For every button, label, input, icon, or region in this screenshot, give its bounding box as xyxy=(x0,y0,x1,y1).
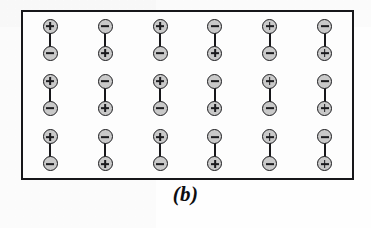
negative-charge-icon xyxy=(153,101,168,116)
dipole-stem xyxy=(269,33,271,47)
negative-charge-icon xyxy=(43,101,58,116)
negative-charge-icon xyxy=(153,46,168,61)
dipole xyxy=(262,129,278,171)
positive-charge-icon xyxy=(43,74,58,89)
dipole-stem xyxy=(324,143,326,157)
dipole xyxy=(42,19,58,61)
negative-charge-icon xyxy=(43,46,58,61)
dipole-stem xyxy=(104,88,106,102)
negative-charge-icon xyxy=(262,156,277,171)
positive-charge-icon xyxy=(98,156,113,171)
positive-charge-icon xyxy=(98,101,113,116)
positive-charge-icon xyxy=(262,19,277,34)
positive-charge-icon xyxy=(153,74,168,89)
positive-charge-icon xyxy=(207,46,222,61)
positive-charge-icon xyxy=(43,129,58,144)
dipole-stem xyxy=(324,33,326,47)
dipole-stem xyxy=(159,88,161,102)
dipole xyxy=(97,19,113,61)
positive-charge-icon xyxy=(153,129,168,144)
positive-charge-icon xyxy=(153,19,168,34)
dipole-stem xyxy=(104,143,106,157)
dipole-stem xyxy=(159,143,161,157)
negative-charge-icon xyxy=(317,129,332,144)
dipole-stem xyxy=(104,33,106,47)
dipole xyxy=(42,74,58,116)
positive-charge-icon xyxy=(262,74,277,89)
dielectric-slab xyxy=(21,10,354,180)
dipole xyxy=(207,129,223,171)
negative-charge-icon xyxy=(317,19,332,34)
negative-charge-icon xyxy=(207,74,222,89)
positive-charge-icon xyxy=(207,101,222,116)
dipole xyxy=(152,129,168,171)
negative-charge-icon xyxy=(207,129,222,144)
positive-charge-icon xyxy=(317,46,332,61)
dipole-stem xyxy=(269,143,271,157)
dipole xyxy=(317,19,333,61)
dipole xyxy=(207,19,223,61)
figure-caption: (b) xyxy=(0,182,371,207)
dipole-stem xyxy=(49,33,51,47)
negative-charge-icon xyxy=(262,101,277,116)
dipole xyxy=(317,129,333,171)
dipole-stem xyxy=(49,143,51,157)
dipole-stem xyxy=(269,88,271,102)
dipole xyxy=(97,74,113,116)
dipole xyxy=(152,19,168,61)
dipole xyxy=(152,74,168,116)
negative-charge-icon xyxy=(207,19,222,34)
dipole xyxy=(207,74,223,116)
positive-charge-icon xyxy=(317,101,332,116)
dipole xyxy=(262,19,278,61)
dipole-grid xyxy=(23,12,352,178)
positive-charge-icon xyxy=(207,156,222,171)
dipole-stem xyxy=(49,88,51,102)
figure-panel-b: (b) xyxy=(0,0,371,228)
dipole xyxy=(317,74,333,116)
positive-charge-icon xyxy=(43,19,58,34)
negative-charge-icon xyxy=(98,19,113,34)
negative-charge-icon xyxy=(317,74,332,89)
dipole-stem xyxy=(159,33,161,47)
dipole xyxy=(42,129,58,171)
dipole xyxy=(97,129,113,171)
negative-charge-icon xyxy=(98,129,113,144)
dipole-stem xyxy=(214,143,216,157)
negative-charge-icon xyxy=(153,156,168,171)
dipole xyxy=(262,74,278,116)
dipole-stem xyxy=(214,88,216,102)
dipole-stem xyxy=(324,88,326,102)
dipole-stem xyxy=(214,33,216,47)
negative-charge-icon xyxy=(262,46,277,61)
positive-charge-icon xyxy=(98,46,113,61)
positive-charge-icon xyxy=(262,129,277,144)
positive-charge-icon xyxy=(317,156,332,171)
negative-charge-icon xyxy=(43,156,58,171)
negative-charge-icon xyxy=(98,74,113,89)
